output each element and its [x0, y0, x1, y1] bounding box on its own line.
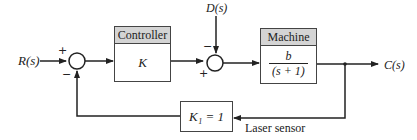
machine-numerator: b — [261, 49, 316, 63]
sum1-plus-sign: + — [58, 44, 67, 57]
controller-block: Controller K — [114, 26, 171, 82]
controller-gain: K — [115, 44, 170, 82]
summing-junction-1 — [69, 53, 85, 69]
sensor-block: K₁ = 1 — [180, 101, 233, 132]
pickoff-point — [343, 62, 347, 66]
sum1-minus-sign: − — [62, 68, 71, 81]
sum2-plus-sign: + — [199, 67, 208, 80]
machine-title: Machine — [261, 29, 316, 46]
input-label: R(s) — [18, 53, 40, 69]
output-label: C(s) — [384, 58, 405, 73]
disturbance-label: D(s) — [206, 1, 227, 16]
machine-block: Machine b (s + 1) — [260, 28, 317, 84]
machine-denominator: (s + 1) — [261, 64, 316, 79]
sensor-gain: K₁ = 1 — [189, 109, 224, 124]
summing-junction-2 — [207, 55, 223, 71]
sum2-minus-sign: − — [203, 40, 212, 53]
controller-title: Controller — [115, 27, 170, 44]
sensor-label: Laser sensor — [245, 121, 305, 136]
